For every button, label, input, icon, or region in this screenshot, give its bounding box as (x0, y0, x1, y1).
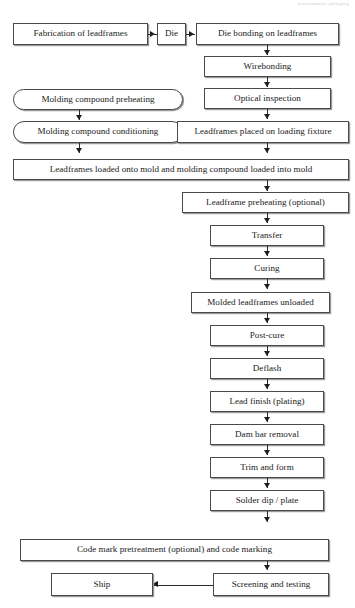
edge-preheat-to-transfer-arrow (264, 218, 270, 223)
edge-fabrication-to-die-line (148, 34, 157, 35)
node-optical-inspection-label: Optical inspection (234, 94, 301, 104)
node-fabrication-label: Fabrication of leadframes (34, 29, 128, 39)
node-molded-leadframes-unloaded-label: Molded leadframes unloaded (207, 298, 314, 308)
edge-deflash-to-lead-finish-arrow (264, 384, 270, 389)
edge-die-bonding-to-wirebonding-arrow (264, 50, 270, 55)
edge-optical-to-loading-fixture-arrow (264, 114, 270, 119)
node-code-marking[interactable]: Code mark pretreatment (optional) and co… (20, 539, 329, 561)
edge-transfer-to-curing-arrow (264, 251, 270, 256)
node-leadframe-preheating[interactable]: Leadframe preheating (optional) (182, 192, 349, 213)
node-die-bonding-label: Die bonding on leadframes (218, 29, 317, 39)
node-ship-label: Ship (94, 580, 111, 590)
node-molding-compound-preheating[interactable]: Molding compound preheating (13, 89, 183, 110)
node-wirebonding[interactable]: Wirebonding (204, 56, 331, 77)
node-solder-dip-plate-label: Solder dip / plate (236, 496, 299, 506)
node-die[interactable]: Die (157, 23, 186, 45)
node-screening-and-testing[interactable]: Screening and testing (213, 573, 329, 596)
node-optical-inspection[interactable]: Optical inspection (204, 88, 331, 109)
node-molding-compound-conditioning[interactable]: Molding compound conditioning (13, 121, 183, 143)
node-solder-dip-plate[interactable]: Solder dip / plate (210, 490, 324, 511)
node-molding-compound-conditioning-label: Molding compound conditioning (38, 127, 159, 137)
edge-solder-dip-to-code-marking-arrow (264, 517, 270, 522)
edge-post-cure-to-deflash-arrow (264, 351, 270, 356)
running-header: semiconductor packaging (199, 1, 349, 6)
edge-preheating-to-conditioning-arrow (76, 115, 82, 120)
node-die-label: Die (165, 29, 178, 39)
node-molding-compound-preheating-label: Molding compound preheating (41, 95, 154, 105)
edge-loading-fixture-to-mold-arrow (264, 148, 270, 153)
node-ship[interactable]: Ship (51, 573, 153, 596)
node-lead-finish-label: Lead finish (plating) (229, 397, 304, 407)
node-deflash[interactable]: Deflash (210, 358, 324, 379)
node-curing-label: Curing (254, 264, 279, 274)
node-code-marking-label: Code mark pretreatment (optional) and co… (77, 545, 272, 555)
node-dam-bar-removal-label: Dam bar removal (235, 430, 299, 440)
node-dam-bar-removal[interactable]: Dam bar removal (210, 424, 324, 445)
node-screening-and-testing-label: Screening and testing (232, 580, 311, 590)
edge-curing-to-molded-unloaded-arrow (264, 284, 270, 289)
edge-code-marking-to-screening-arrow (264, 565, 270, 570)
node-leadframe-preheating-label: Leadframe preheating (optional) (206, 198, 325, 208)
edge-trim-to-solder-dip-arrow (264, 483, 270, 488)
node-post-cure-label: Post-cure (250, 331, 285, 341)
node-lead-finish[interactable]: Lead finish (plating) (210, 391, 324, 412)
node-loading-fixture[interactable]: Leadframes placed on loading fixture (177, 121, 349, 143)
flowchart-page: semiconductor packaging Fabrication of l… (0, 0, 355, 608)
edge-screening-to-ship-line (153, 585, 213, 586)
edge-dam-bar-to-trim-arrow (264, 450, 270, 455)
node-trim-and-form[interactable]: Trim and form (210, 457, 324, 478)
node-post-cure[interactable]: Post-cure (210, 325, 324, 346)
edge-die-to-die-bonding-arrow (189, 31, 194, 37)
node-leadframes-loaded-onto-mold-label: Leadframes loaded onto mold and molding … (50, 165, 313, 175)
node-transfer[interactable]: Transfer (210, 225, 324, 246)
node-die-bonding[interactable]: Die bonding on leadframes (196, 23, 339, 45)
node-transfer-label: Transfer (252, 231, 283, 241)
node-fabrication[interactable]: Fabrication of leadframes (13, 23, 148, 45)
edge-conditioning-to-mold-arrow (76, 148, 82, 153)
node-curing[interactable]: Curing (210, 258, 324, 279)
node-loading-fixture-label: Leadframes placed on loading fixture (194, 127, 331, 137)
edge-wirebonding-to-optical-arrow (264, 82, 270, 87)
edge-mold-to-leadframe-preheat-arrow (264, 186, 270, 191)
edge-unloaded-to-post-cure-arrow (264, 318, 270, 323)
edge-lead-finish-to-dam-bar-arrow (264, 417, 270, 422)
node-trim-and-form-label: Trim and form (240, 463, 293, 473)
node-deflash-label: Deflash (253, 364, 281, 374)
node-leadframes-loaded-onto-mold[interactable]: Leadframes loaded onto mold and molding … (13, 159, 349, 180)
node-wirebonding-label: Wirebonding (244, 62, 292, 72)
node-molded-leadframes-unloaded[interactable]: Molded leadframes unloaded (191, 292, 330, 313)
